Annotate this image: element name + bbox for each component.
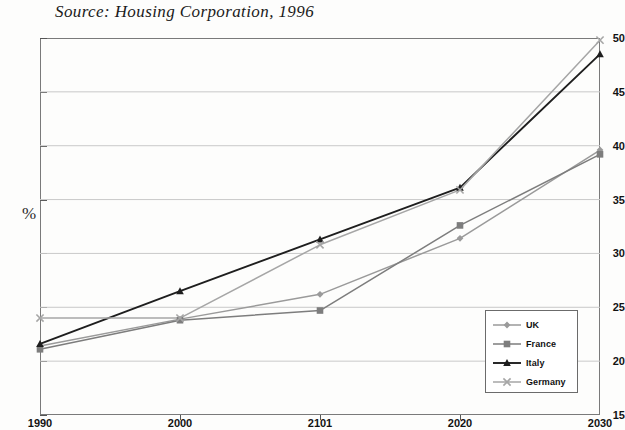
triangle-marker <box>596 50 604 57</box>
series-line-italy <box>40 54 600 344</box>
diamond-marker <box>317 291 324 298</box>
legend-swatch <box>492 376 522 388</box>
square-marker <box>317 307 324 314</box>
legend-swatch <box>492 338 522 350</box>
series-markers <box>36 37 604 353</box>
legend-item-uk[interactable]: UK <box>492 316 539 334</box>
legend-swatch <box>492 357 522 369</box>
square-marker <box>597 151 604 158</box>
legend: UKFranceItalyGermany <box>485 310 578 393</box>
series-line-germany <box>40 40 600 318</box>
series-lines <box>40 40 600 349</box>
legend-label: France <box>526 339 556 349</box>
legend-swatch <box>492 319 522 331</box>
square-marker <box>504 341 511 348</box>
legend-item-italy[interactable]: Italy <box>492 354 545 372</box>
legend-item-france[interactable]: France <box>492 335 556 353</box>
legend-item-germany[interactable]: Germany <box>492 373 566 391</box>
legend-label: Germany <box>526 377 566 387</box>
chart-figure: Source: Housing Corporation, 1996 % 5045… <box>0 0 625 430</box>
square-marker <box>37 346 44 353</box>
diamond-marker <box>504 322 511 329</box>
square-marker <box>457 222 464 229</box>
cross-marker <box>596 37 603 44</box>
legend-label: UK <box>526 320 539 330</box>
legend-label: Italy <box>526 358 545 368</box>
